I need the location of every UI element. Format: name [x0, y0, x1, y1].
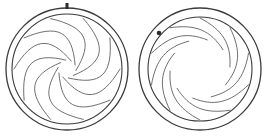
- alignment-pin-left: [66, 3, 69, 9]
- figure-root: [0, 0, 267, 138]
- alignment-dot-right: [157, 31, 162, 36]
- iris-diaphragm-figure: [0, 0, 267, 138]
